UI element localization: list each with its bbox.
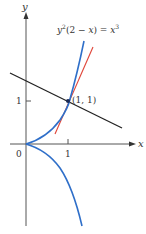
origin-label: 0 <box>16 149 22 159</box>
y-axis-label: y <box>21 1 28 12</box>
equation-label: y2(2 − x) = x3 <box>56 23 119 35</box>
y-tick-label: 1 <box>16 96 22 106</box>
x-axis-label: x <box>138 138 144 149</box>
cissoid-diagram: y x 0 1 1 (1, 1) y2(2 − x) = x3 <box>0 0 146 234</box>
cissoid-lower-branch <box>26 144 82 226</box>
tangent-line <box>55 47 93 134</box>
point-label: (1, 1) <box>72 95 96 105</box>
x-tick-label: 1 <box>65 149 71 159</box>
cissoid-upper-branch <box>26 41 84 144</box>
y-axis-arrow-icon <box>24 12 29 19</box>
point-1-1 <box>66 99 70 103</box>
x-axis-arrow-icon <box>129 142 136 147</box>
